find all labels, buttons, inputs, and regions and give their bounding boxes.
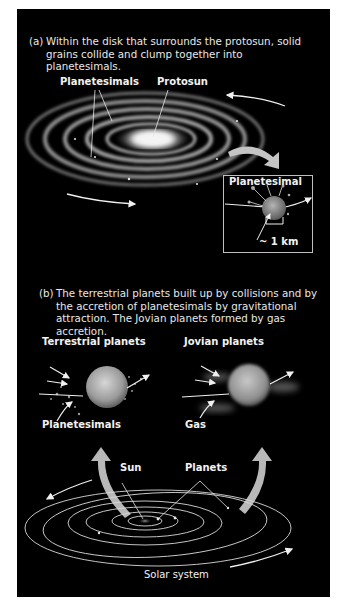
label-scale: ~ 1 km [259, 236, 298, 247]
panel-b-caption: (b) The terrestrial planets built up by … [39, 287, 329, 337]
label-protosun: Protosun [157, 76, 208, 87]
arrow-to-jovian [239, 447, 272, 514]
label-planets: Planets [185, 462, 227, 473]
jovian-planet-illustration [182, 364, 299, 418]
label-solar-system: Solar system [144, 569, 209, 580]
label-terrestrial-planets: Terrestrial planets [42, 336, 146, 347]
label-gas: Gas [185, 419, 206, 430]
label-planetesimals-b: Planetesimals [42, 419, 121, 430]
panel-b-tag: (b) [39, 287, 54, 300]
rotation-arrow-bottom [67, 194, 135, 204]
panel-b-caption-text: The terrestrial planets built up by coll… [39, 287, 329, 337]
figure-panel: (a) Within the disk that surrounds the p… [17, 9, 330, 597]
label-jovian-planets: Jovian planets [184, 336, 264, 347]
label-planetesimals-a: Planetesimals [60, 76, 139, 87]
sun [138, 518, 152, 524]
label-planetesimal-inset: Planetesimal [229, 176, 302, 187]
rotation-arrow-top [227, 95, 285, 106]
arrow-to-terrestrial [91, 447, 131, 518]
label-sun: Sun [120, 462, 141, 473]
terrestrial-planet-illustration [39, 366, 149, 421]
